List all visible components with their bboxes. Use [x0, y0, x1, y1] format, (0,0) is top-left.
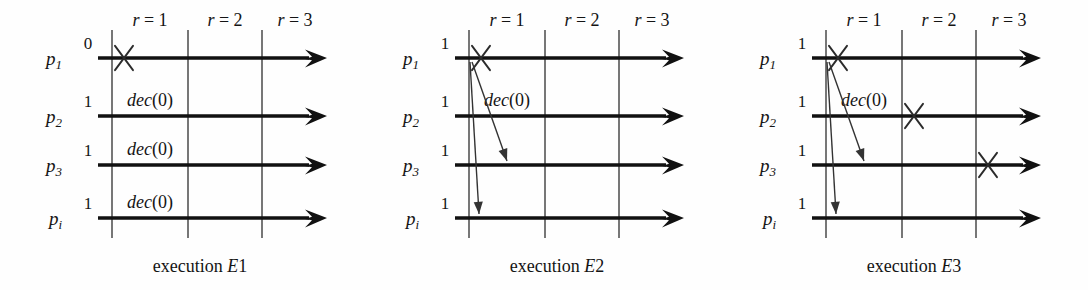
process-line-arrowhead	[305, 108, 327, 126]
message-arrow-p1-to-p3	[472, 62, 507, 161]
round-label-3: r = 3	[634, 10, 669, 30]
message-arrow-p1-to-p3	[829, 62, 864, 161]
process-line-arrowhead	[662, 210, 684, 228]
initial-value-p2: 1	[798, 92, 807, 111]
panel-caption: execution E2	[510, 256, 604, 276]
process-track-p2: p21dec(0)	[44, 90, 327, 130]
caption-e3: execution E3	[867, 256, 961, 276]
process-label-p3: p3	[758, 155, 777, 179]
initial-value-pi: 1	[798, 194, 807, 213]
execution-panel-e3: r = 1r = 2r = 3p11p21dec(0)p31pi1executi…	[714, 0, 1077, 290]
round-label-1: r = 1	[846, 10, 881, 30]
process-track-p1: p10	[44, 34, 327, 72]
caption-e2: execution E2	[510, 256, 604, 276]
message-arrows	[827, 62, 864, 214]
message-arrow-p1-to-pi	[470, 62, 483, 214]
process-line-arrowhead	[305, 157, 327, 175]
process-label-p1: p1	[44, 48, 62, 72]
initial-value-pi: 1	[441, 194, 450, 213]
process-label-pi: pi	[47, 208, 63, 232]
decision-label-pi: dec(0)	[127, 192, 173, 213]
initial-value-pi: 1	[84, 194, 93, 213]
process-label-p1: p1	[401, 48, 419, 72]
process-label-p3: p3	[44, 155, 63, 179]
round-labels: r = 1r = 2r = 3	[132, 10, 312, 30]
process-line-arrowhead	[1019, 210, 1041, 228]
round-label-2: r = 2	[921, 10, 956, 30]
process-track-pi: pi1	[404, 194, 684, 232]
process-label-pi: pi	[761, 208, 777, 232]
round-labels: r = 1r = 2r = 3	[489, 10, 669, 30]
process-line-arrowhead	[305, 210, 327, 228]
execution-panel-e2: r = 1r = 2r = 3p11p21dec(0)p31pi1executi…	[357, 0, 720, 290]
round-label-3: r = 3	[991, 10, 1026, 30]
process-line-arrowhead	[662, 157, 684, 175]
process-label-p2: p2	[44, 106, 63, 130]
round-labels: r = 1r = 2r = 3	[846, 10, 1026, 30]
caption-e1: execution E1	[153, 256, 247, 276]
message-arrows	[470, 62, 507, 214]
process-line-arrowhead	[662, 50, 684, 68]
decision-label-p2: dec(0)	[484, 90, 530, 111]
process-label-p1: p1	[758, 48, 776, 72]
process-label-p3: p3	[401, 155, 420, 179]
initial-value-p1: 1	[798, 34, 807, 53]
message-arrow-p1-to-pi	[827, 62, 840, 214]
process-label-pi: pi	[404, 208, 420, 232]
round-label-2: r = 2	[207, 10, 242, 30]
process-line-arrowhead	[1019, 50, 1041, 68]
round-boundaries	[826, 30, 976, 238]
process-track-p3: p31	[758, 141, 1041, 179]
process-track-p2: p21dec(0)	[401, 90, 684, 130]
process-line-arrowhead	[305, 50, 327, 68]
process-label-p2: p2	[401, 106, 420, 130]
process-label-p2: p2	[758, 106, 777, 130]
initial-value-p3: 1	[798, 141, 807, 160]
process-line-arrowhead	[1019, 108, 1041, 126]
initial-value-p3: 1	[84, 141, 93, 160]
round-label-3: r = 3	[277, 10, 312, 30]
execution-panel-e1: r = 1r = 2r = 3p10p21dec(0)p31dec(0)pi1d…	[0, 0, 363, 290]
decision-label-p2: dec(0)	[127, 90, 173, 111]
panel-caption: execution E1	[153, 256, 247, 276]
round-label-1: r = 1	[489, 10, 524, 30]
initial-value-p3: 1	[441, 141, 450, 160]
process-track-p2: p21dec(0)	[758, 90, 1041, 130]
process-track-p3: p31	[401, 141, 684, 179]
round-label-1: r = 1	[132, 10, 167, 30]
decision-label-p3: dec(0)	[127, 139, 173, 160]
panel-caption: execution E3	[867, 256, 961, 276]
initial-value-p2: 1	[441, 92, 450, 111]
process-track-p1: p11	[401, 34, 684, 72]
process-track-pi: pi1	[761, 194, 1041, 232]
decision-label-p2: dec(0)	[841, 90, 887, 111]
initial-value-p2: 1	[84, 92, 93, 111]
process-track-p1: p11	[758, 34, 1041, 72]
initial-value-p1: 1	[441, 34, 450, 53]
round-boundaries	[469, 30, 619, 238]
initial-value-p1: 0	[84, 34, 93, 53]
process-line-arrowhead	[662, 108, 684, 126]
process-track-pi: pi1dec(0)	[47, 192, 327, 232]
executions-figure: r = 1r = 2r = 3p10p21dec(0)p31dec(0)pi1d…	[0, 0, 1088, 290]
process-line-arrowhead	[1019, 157, 1041, 175]
round-label-2: r = 2	[564, 10, 599, 30]
process-track-p3: p31dec(0)	[44, 139, 327, 179]
